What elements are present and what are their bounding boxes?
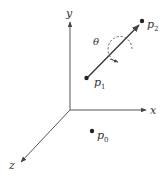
point-p0: [90, 129, 94, 133]
rotation-diagram: y x z θ p1 p2 p0: [0, 0, 162, 177]
y-axis-label: y: [65, 7, 73, 20]
z-axis-label: z: [8, 159, 15, 172]
point-p2-label: p2: [147, 18, 159, 33]
x-axis-label: x: [150, 104, 157, 117]
rotation-axis-vector: [87, 25, 139, 78]
rotation-arc-arrow: [110, 59, 118, 62]
angle-theta-label: θ: [93, 36, 99, 47]
z-axis: [21, 110, 70, 162]
point-p0-label: p0: [97, 129, 109, 144]
axes: [21, 22, 146, 162]
rotation-arc: [108, 36, 132, 60]
point-p1-label: p1: [94, 76, 106, 91]
point-p2: [140, 19, 144, 23]
point-p1: [84, 76, 88, 80]
